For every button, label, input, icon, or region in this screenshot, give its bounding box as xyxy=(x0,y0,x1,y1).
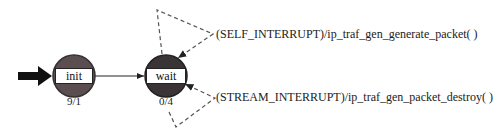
initial-state-arrow-icon xyxy=(18,66,52,86)
transition-label-stream-interrupt: (STREAM_INTERRUPT)/ip_traf_gen_packet_de… xyxy=(216,90,493,105)
state-init-label: init xyxy=(55,68,93,84)
state-wait-label: wait xyxy=(146,68,186,84)
transition-self-interrupt[interactable] xyxy=(157,10,213,58)
state-init-count: 9/1 xyxy=(54,95,94,107)
state-wait-count: 0/4 xyxy=(146,95,186,107)
transition-label-self-interrupt: (SELF_INTERRUPT)/ip_traf_gen_generate_pa… xyxy=(216,27,478,42)
